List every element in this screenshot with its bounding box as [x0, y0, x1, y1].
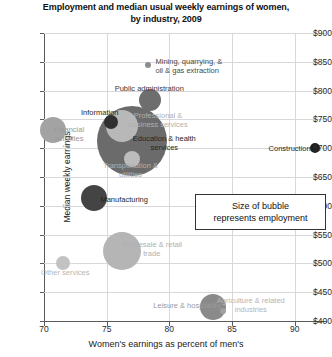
plot-area: Median weekly earnings Mining, quarrying…	[44, 33, 326, 321]
y-axis-tick-mark	[40, 292, 44, 293]
x-axis-line	[44, 321, 327, 322]
x-axis-tick-mark	[169, 322, 170, 326]
x-axis-tick-mark	[295, 322, 296, 326]
chart-title-line1: Employment and median usual weekly earni…	[43, 2, 289, 12]
y-axis-tick-mark	[40, 62, 44, 63]
gridline-vertical	[169, 33, 170, 321]
gridline-horizontal	[44, 33, 326, 34]
x-axis-tick-mark	[44, 322, 45, 326]
data-bubble[interactable]	[145, 62, 151, 68]
data-point-label: Public administration	[115, 83, 184, 92]
y-axis-tick-label: $800	[294, 86, 332, 96]
y-axis-tick-label: $400	[294, 316, 332, 326]
gridline-horizontal	[44, 292, 326, 293]
y-axis-tick-label: $550	[294, 230, 332, 240]
data-point-label: Financial activities	[54, 125, 84, 143]
y-axis-tick-mark	[40, 148, 44, 149]
x-axis-tick-mark	[232, 322, 233, 326]
gridline-horizontal	[44, 91, 326, 92]
y-axis-tick-mark	[40, 235, 44, 236]
data-point-label: Wholesale & retail trade	[122, 240, 182, 258]
data-point-label: Education & health services	[133, 134, 196, 152]
gridline-horizontal	[44, 235, 326, 236]
y-axis-tick-label: $500	[294, 258, 332, 268]
bubble-size-legend: Size of bubblerepresents employment	[195, 194, 326, 230]
y-axis-tick-mark	[40, 119, 44, 120]
chart-title-line2: by industry, 2009	[130, 14, 201, 24]
y-axis-tick-label: $700	[294, 143, 332, 153]
y-axis-tick-label: $900	[294, 28, 332, 38]
bubble-chart: Employment and median usual weekly earni…	[0, 0, 332, 357]
data-point-label: Professional & business services	[128, 111, 187, 129]
y-axis-tick-label: $850	[294, 57, 332, 67]
y-axis-tick-mark	[40, 91, 44, 92]
x-axis-title: Women's earnings as percent of men's	[0, 339, 332, 349]
gridline-vertical	[232, 33, 233, 321]
y-axis-tick-label: $650	[294, 172, 332, 182]
data-point-label: Mining, quarrying, & oil & gas extractio…	[156, 57, 223, 75]
y-axis-tick-mark	[40, 263, 44, 264]
data-point-label: Information	[81, 108, 119, 117]
data-point-label: Transportation & utilities	[103, 161, 158, 179]
gridline-horizontal	[44, 177, 326, 178]
data-point-label: Other services	[41, 268, 89, 277]
data-point-label: Agriculture & related industries	[217, 296, 285, 314]
data-point-label: Manufacturing	[100, 194, 148, 203]
bubble-size-legend-line2: represents employment	[202, 212, 319, 224]
gridline-horizontal	[44, 263, 326, 264]
y-axis-tick-label: $450	[294, 287, 332, 297]
data-bubble[interactable]	[139, 89, 161, 111]
bubble-size-legend-line1: Size of bubble	[202, 200, 319, 212]
chart-title: Employment and median usual weekly earni…	[0, 2, 332, 25]
x-axis-tick-mark	[107, 322, 108, 326]
y-axis-tick-mark	[40, 206, 44, 207]
data-point-label: Leisure & hospitality	[153, 301, 220, 310]
y-axis-tick-label: $750	[294, 114, 332, 124]
y-axis-tick-mark	[40, 33, 44, 34]
y-axis-tick-mark	[40, 177, 44, 178]
